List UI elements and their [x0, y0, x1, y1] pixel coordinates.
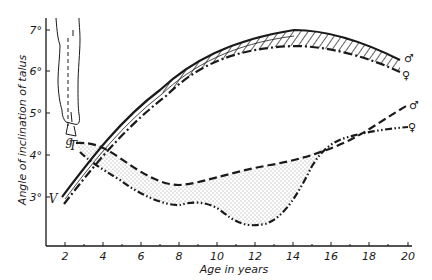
v-male-end-symbol: ♂	[404, 52, 414, 65]
x-tick-label: 10	[210, 250, 224, 263]
curve-label-v: V	[49, 192, 59, 206]
t-stippled-band	[76, 138, 340, 225]
leg-illustration	[56, 18, 80, 136]
x-tick-label: 2	[62, 250, 69, 263]
v-female-end-symbol: ♀	[402, 69, 410, 82]
x-tick-label: 4	[100, 250, 107, 263]
x-tick-label: 12	[248, 250, 262, 263]
curve-label-t: T	[69, 139, 78, 153]
y-tick-label: 7°	[30, 24, 43, 37]
x-axis-title: Age in years	[199, 263, 269, 276]
y-axis-title: Angle of inclination of talus	[16, 55, 29, 207]
t-female-end-symbol: ♀	[408, 121, 416, 134]
x-tick-label: 20	[401, 250, 415, 263]
y-tick-label: 6°	[30, 65, 43, 78]
t-male-end-symbol: ♂	[409, 99, 419, 112]
x-tick-label: 8	[176, 250, 183, 263]
y-tick-label: 3°	[30, 191, 43, 204]
y-tick-label: 4°	[30, 149, 43, 162]
x-tick-label: 14	[286, 250, 300, 263]
x-tick-label: 16	[324, 250, 338, 263]
talus-angle-chart: 7° 6° 5° 4° 3° 2 4 6 8 10 12 14 16 18	[0, 0, 432, 280]
x-tick-label: 18	[362, 250, 376, 263]
x-tick-label: 6	[138, 250, 145, 263]
x-tick-labels: 2 4 6 8 10 12 14 16 18 20	[62, 250, 416, 263]
y-tick-label: 5°	[30, 107, 43, 120]
y-ticks: 7° 6° 5° 4° 3°	[30, 24, 51, 204]
